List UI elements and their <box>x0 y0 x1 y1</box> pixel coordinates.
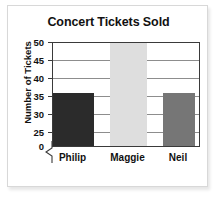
y-tick-label-0: 0 <box>22 141 44 152</box>
y-tick-label-35: 35 <box>22 91 44 102</box>
chart-title: Concert Tickets Sold <box>8 15 209 29</box>
y-tick-label-40: 40 <box>22 73 44 84</box>
x-tick-label-maggie: Maggie <box>109 152 146 163</box>
bar-maggie <box>110 43 147 146</box>
y-tick-label-50: 50 <box>22 37 44 48</box>
y-tick-label-45: 45 <box>22 55 44 66</box>
x-tick-label-neil: Neil <box>162 152 194 163</box>
chart-card: Concert Tickets Sold Number of Tickets 5… <box>7 5 208 187</box>
bar-philip <box>53 93 94 146</box>
bar-neil <box>163 93 195 146</box>
x-tick-label-philip: Philip <box>52 152 93 163</box>
y-tick-label-25: 25 <box>22 127 44 138</box>
plot-area <box>52 42 200 147</box>
y-tick-label-30: 30 <box>22 109 44 120</box>
